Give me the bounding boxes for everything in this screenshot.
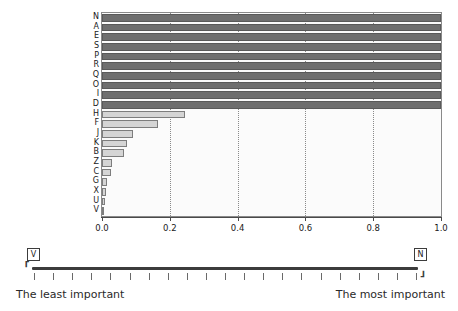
y-axis-label-E: E xyxy=(94,32,99,40)
slider-tick xyxy=(130,273,131,280)
slider-tick xyxy=(34,273,35,280)
bar-H xyxy=(102,111,185,119)
bar-Q xyxy=(102,72,441,80)
y-axis-label-Z: Z xyxy=(94,158,99,166)
y-axis-label-A: A xyxy=(94,23,99,31)
slider-tick xyxy=(53,273,54,280)
slider-tick xyxy=(206,273,207,280)
y-axis-label-U: U xyxy=(93,197,99,205)
y-axis-label-X: X xyxy=(94,187,99,195)
slider-handle-right[interactable]: N xyxy=(414,248,427,261)
x-axis-tick xyxy=(170,217,171,221)
y-axis-label-I: I xyxy=(97,90,99,98)
y-axis-label-D: D xyxy=(93,100,99,108)
slider-tick xyxy=(110,273,111,280)
x-axis-tick xyxy=(305,217,306,221)
slider-tick xyxy=(340,273,341,280)
y-axis-label-P: P xyxy=(94,52,99,60)
plot-area xyxy=(101,12,442,217)
x-axis-tick xyxy=(441,217,442,221)
bar-F xyxy=(102,120,158,128)
x-axis-tick xyxy=(373,217,374,221)
y-axis-label-C: C xyxy=(93,168,99,176)
slider-tick xyxy=(168,273,169,280)
bar-B xyxy=(102,149,124,157)
y-axis-label-R: R xyxy=(93,61,99,69)
slider-tick xyxy=(187,273,188,280)
slider-tick xyxy=(91,273,92,280)
slider-tick xyxy=(72,273,73,280)
y-axis-label-O: O xyxy=(93,81,99,89)
x-axis-tick-label: 0.0 xyxy=(95,223,109,233)
x-axis-line xyxy=(101,217,442,218)
slider-left-cap-icon: ⸢ xyxy=(24,261,31,278)
bar-R xyxy=(102,62,441,70)
x-axis-tick-label: 0.6 xyxy=(299,223,313,233)
y-axis-label-G: G xyxy=(93,177,99,185)
bar-E xyxy=(102,33,441,41)
slider-tick xyxy=(416,273,417,280)
bar-J xyxy=(102,130,133,138)
y-axis-label-V: V xyxy=(94,206,99,214)
bar-P xyxy=(102,53,441,61)
bar-N xyxy=(102,14,441,22)
bar-C xyxy=(102,169,111,177)
bar-S xyxy=(102,43,441,51)
y-axis-label-S: S xyxy=(94,42,99,50)
y-axis-label-Q: Q xyxy=(93,71,99,79)
slider-right-cap-icon: ⸥ xyxy=(419,261,426,278)
bar-Z xyxy=(102,159,112,167)
bar-I xyxy=(102,91,441,99)
bar-chart-figure: NAESPRQOIDHFJKBZCGXUV 0.00.20.40.60.81.0 xyxy=(0,0,458,248)
slider-tick xyxy=(378,273,379,280)
y-axis-label-F: F xyxy=(94,119,99,127)
slider-tick xyxy=(301,273,302,280)
slider-tick xyxy=(397,273,398,280)
bar-X xyxy=(102,188,106,196)
slider-handle-left[interactable]: V xyxy=(27,248,40,261)
x-axis-tick-label: 0.2 xyxy=(163,223,177,233)
slider-tick xyxy=(263,273,264,280)
x-axis-tick-label: 0.4 xyxy=(231,223,245,233)
bar-V xyxy=(102,207,104,215)
slider-tick xyxy=(149,273,150,280)
slider-label-least-important: The least important xyxy=(16,288,124,302)
slider-tick xyxy=(244,273,245,280)
bar-D xyxy=(102,101,441,109)
bar-G xyxy=(102,178,107,186)
y-axis-label-K: K xyxy=(94,139,99,147)
y-axis-label-H: H xyxy=(93,110,99,118)
x-axis-tick-label: 1.0 xyxy=(434,223,448,233)
bar-A xyxy=(102,24,441,32)
y-axis-label-B: B xyxy=(94,148,100,156)
bar-K xyxy=(102,140,127,148)
x-axis-tick-label: 0.8 xyxy=(366,223,380,233)
slider-label-most-important: The most important xyxy=(336,288,445,302)
bar-O xyxy=(102,82,441,90)
slider-track[interactable] xyxy=(32,267,418,270)
y-axis-labels: NAESPRQOIDHFJKBZCGXUV xyxy=(86,12,101,217)
y-axis-label-N: N xyxy=(93,13,99,21)
x-axis-tick xyxy=(238,217,239,221)
y-axis-label-J: J xyxy=(97,129,99,137)
slider-tick xyxy=(282,273,283,280)
importance-slider[interactable]: ⸢ ⸥ V N The least important The most imp… xyxy=(0,248,458,311)
slider-tick xyxy=(225,273,226,280)
slider-tick xyxy=(359,273,360,280)
x-axis-tick xyxy=(102,217,103,221)
slider-tick xyxy=(321,273,322,280)
bar-U xyxy=(102,198,105,206)
